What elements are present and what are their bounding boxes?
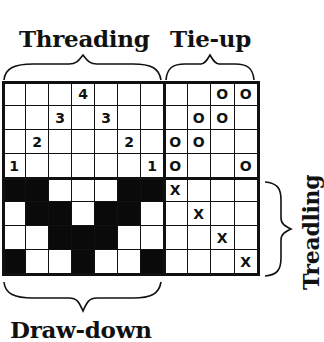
drawdown-cell (141, 202, 164, 226)
tieup-cell: O (188, 106, 212, 130)
drawdown-cell (72, 178, 95, 202)
tieup-cell: O (235, 154, 259, 178)
threading-cell (95, 82, 118, 106)
threading-cell (141, 106, 164, 130)
threading-cell (118, 154, 141, 178)
treadling-label: Treadling (298, 175, 324, 290)
tieup-cell (164, 106, 188, 130)
threading-cell (141, 82, 164, 106)
drawdown-label: Draw-down (10, 316, 152, 342)
threading-cell (26, 82, 49, 106)
treadling-cell (188, 178, 212, 202)
tieup-cell (164, 82, 188, 106)
threading-cell: 4 (72, 82, 95, 106)
drawdown-cell (95, 226, 118, 250)
tieup-cell: O (211, 106, 235, 130)
treadling-cell (164, 250, 188, 274)
tieup-cell (235, 130, 259, 154)
threading-cell (72, 154, 95, 178)
treadling-cell (211, 178, 235, 202)
drawdown-cell (49, 178, 72, 202)
drawdown-cell (3, 178, 26, 202)
treadling-cell (211, 202, 235, 226)
threading-cell (3, 106, 26, 130)
threading-cell (26, 154, 49, 178)
tieup-cell (211, 154, 235, 178)
drawdown-cell (26, 202, 49, 226)
threading-cell (72, 106, 95, 130)
tieup-cell: O (188, 130, 212, 154)
threading-cell (95, 154, 118, 178)
drawdown-cell (49, 226, 72, 250)
drawdown-cell (118, 226, 141, 250)
treadling-cell (235, 178, 259, 202)
tieup-cell: O (211, 82, 235, 106)
drawdown-cell (26, 250, 49, 274)
treadling-cell (164, 202, 188, 226)
treadling-cell (188, 250, 212, 274)
threading-cell: 1 (141, 154, 164, 178)
drawdown-cell (95, 178, 118, 202)
drawdown-cell (141, 178, 164, 202)
treadling-cell: X (211, 226, 235, 250)
threading-cell (118, 106, 141, 130)
drawdown-cell (141, 226, 164, 250)
threading-cell (3, 82, 26, 106)
drawdown-cell (118, 202, 141, 226)
treadling-cell (164, 226, 188, 250)
treadling-cell (235, 202, 259, 226)
threading-cell (141, 130, 164, 154)
treadling-cell (235, 226, 259, 250)
section-divider-horizontal (3, 177, 258, 180)
drawdown-cell (26, 226, 49, 250)
drawdown-cell (141, 250, 164, 274)
threading-cell (26, 106, 49, 130)
drawdown-cell (49, 250, 72, 274)
tieup-cell: O (164, 154, 188, 178)
tieup-cell (211, 130, 235, 154)
drawdown-cell (26, 178, 49, 202)
threading-brace-icon (3, 52, 163, 82)
drawdown-cell (72, 202, 95, 226)
treadling-cell: X (164, 178, 188, 202)
treadling-cell: X (235, 250, 259, 274)
threading-cell (118, 82, 141, 106)
threading-cell: 2 (26, 130, 49, 154)
threading-cell: 3 (95, 106, 118, 130)
drawdown-cell (3, 226, 26, 250)
threading-cell (49, 154, 72, 178)
threading-cell (49, 130, 72, 154)
tieup-cell: O (235, 82, 259, 106)
tieup-cell (188, 154, 212, 178)
drawdown-cell (3, 202, 26, 226)
drawdown-cell (95, 250, 118, 274)
tieup-brace-icon (165, 52, 255, 82)
drawdown-cell (72, 250, 95, 274)
treadling-cell: X (188, 202, 212, 226)
drawdown-cell (3, 250, 26, 274)
drawdown-cell (72, 226, 95, 250)
threading-cell (72, 130, 95, 154)
treadling-cell (211, 250, 235, 274)
treadling-brace-icon (263, 180, 293, 278)
threading-cell (95, 130, 118, 154)
tieup-cell (235, 106, 259, 130)
drawdown-cell (118, 250, 141, 274)
threading-label: Threading (19, 25, 149, 52)
tieup-cell: O (164, 130, 188, 154)
threading-cell: 2 (118, 130, 141, 154)
threading-cell (49, 82, 72, 106)
threading-cell: 1 (3, 154, 26, 178)
threading-cell: 3 (49, 106, 72, 130)
tieup-cell (188, 82, 212, 106)
drawdown-cell (49, 202, 72, 226)
drawdown-cell (118, 178, 141, 202)
threading-cell (3, 130, 26, 154)
treadling-cell (188, 226, 212, 250)
drawdown-cell (95, 202, 118, 226)
drawdown-brace-icon (3, 280, 163, 314)
tieup-label: Tie-up (170, 25, 251, 52)
